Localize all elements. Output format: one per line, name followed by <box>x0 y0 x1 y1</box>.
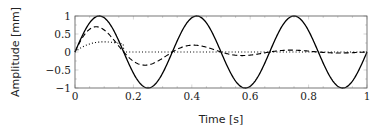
y-tick-label: −0.5 <box>46 64 72 76</box>
x-tick-label: 0 <box>72 90 79 102</box>
x-tick-labels: 00.20.40.60.81 <box>72 90 371 102</box>
y-tick-label: −1 <box>56 82 71 94</box>
x-tick-label: 1 <box>364 90 371 102</box>
y-tick-labels: 10.50−0.5−1 <box>46 10 72 94</box>
x-axis-title: Time [s] <box>198 113 244 126</box>
y-axis-title: Amplitude [mm] <box>9 7 22 97</box>
x-tick-label: 0.8 <box>300 90 317 102</box>
series-dashed <box>75 27 367 65</box>
y-tick-label: 1 <box>64 10 71 22</box>
data-series <box>75 16 367 88</box>
line-chart: 00.20.40.60.81 10.50−0.5−1 Time [s] Ampl… <box>0 0 385 133</box>
y-tick-label: 0 <box>64 46 71 58</box>
y-tick-label: 0.5 <box>54 28 71 40</box>
x-tick-label: 0.6 <box>242 90 259 102</box>
x-tick-label: 0.2 <box>125 90 142 102</box>
x-tick-label: 0.4 <box>183 90 200 102</box>
